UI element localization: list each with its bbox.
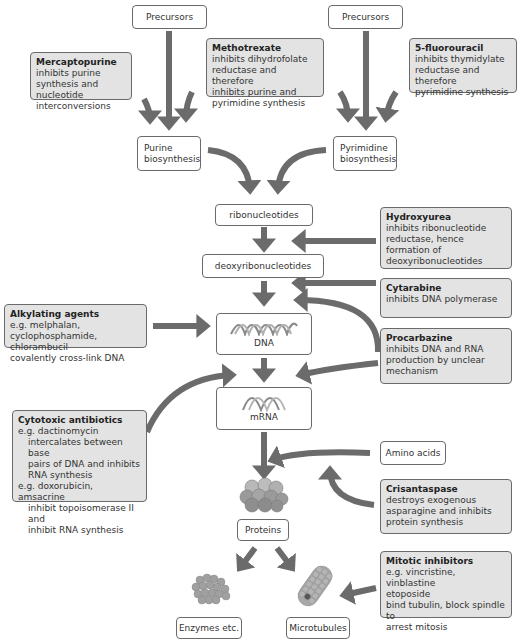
drug-desc: synthesis and nucleotide: [36, 79, 126, 101]
protein-cluster-icon: [238, 477, 290, 513]
arrow-fluorouracil: [386, 92, 396, 118]
drug-name: Mercaptopurine: [36, 57, 126, 68]
node-label: biosynthesis: [144, 154, 200, 165]
drug-desc: bind tubulin, block spindle to: [386, 600, 506, 622]
drug-desc: asparagine and inhibits: [386, 506, 506, 517]
drug-desc: inhibits thymidylate: [415, 54, 511, 65]
node-label: Precursors: [146, 12, 193, 23]
drug-desc: e.g. melphalan,: [10, 320, 141, 331]
arrow-purine-ribo: [208, 150, 250, 190]
drug-desc: etoposide: [386, 589, 506, 600]
arrow-crisantaspase: [330, 470, 374, 505]
drug-desc: RNA synthesis: [18, 470, 141, 481]
drug-desc: inhibit topoisomerase II and: [18, 503, 141, 525]
arrow-amino-acids: [272, 452, 370, 460]
node-label: Proteins: [245, 525, 281, 536]
drug-name: Hydroxyurea: [386, 212, 506, 223]
node-label: deoxyribonucleotides: [215, 261, 311, 272]
drug-desc: intercalates between base: [18, 437, 141, 459]
drug-alkylating-agents: Alkylating agents e.g. melphalan, cyclop…: [4, 304, 147, 348]
node-label: biosynthesis: [340, 154, 396, 165]
drug-name: Cytotoxic antibiotics: [18, 415, 141, 426]
drug-desc: inhibits dihydrofolate: [212, 54, 318, 65]
node-label: Amino acids: [386, 448, 441, 459]
drug-desc: deoxyribonucleotides: [386, 256, 506, 267]
drug-desc: reductase and therefore: [415, 65, 511, 87]
drug-desc: mechanism: [386, 366, 506, 377]
drug-desc: e.g. dactinomycin: [18, 426, 141, 437]
drug-desc: pyrimidine synthesis: [415, 87, 511, 98]
arrow-methotrexate-pyrimidine: [340, 92, 348, 118]
drug-desc: reductase, hence formation of: [386, 234, 506, 256]
drug-desc: pairs of DNA and inhibits: [18, 459, 141, 470]
dna-node: DNA: [216, 313, 312, 355]
drug-mitotic-inhibitors: Mitotic inhibitors e.g. vincristine, vin…: [380, 551, 512, 618]
microtubule-icon: [294, 562, 336, 610]
drug-name: Methotrexate: [212, 43, 318, 54]
drug-desc: e.g. vincristine, vinblastine: [386, 567, 506, 589]
drug-name: Crisantaspase: [386, 484, 506, 495]
node-label: DNA: [254, 338, 274, 349]
drug-name: Cytarabine: [386, 283, 506, 294]
arrow-pyrimidine-ribo: [278, 150, 326, 190]
ribonucleotides-node: ribonucleotides: [215, 204, 313, 226]
drug-5-fluorouracil: 5-fluorouracil inhibits thymidylate redu…: [409, 38, 517, 93]
drug-name: 5-fluorouracil: [415, 43, 511, 54]
drug-name: Procarbazine: [386, 333, 506, 344]
node-label: Enzymes etc.: [179, 623, 239, 634]
enzymes-node: Enzymes etc.: [176, 617, 242, 639]
precursors-right-node: Precursors: [328, 5, 403, 29]
drug-desc: interconversions: [36, 101, 126, 112]
mrna-node: mRNA: [216, 387, 312, 430]
drug-desc: inhibits DNA and RNA: [386, 344, 506, 355]
drug-procarbazine: Procarbazine inhibits DNA and RNA produc…: [380, 328, 512, 384]
arrow-mercaptopurine: [144, 99, 150, 120]
node-label: Pyrimidine: [340, 143, 396, 154]
mrna-strand-icon: [241, 394, 287, 412]
drug-name: Alkylating agents: [10, 309, 141, 320]
node-label: ribonucleotides: [229, 210, 298, 221]
amino-acids-node: Amino acids: [380, 441, 446, 465]
arrow-proteins-microtubules: [277, 548, 292, 568]
drug-desc: destroys exogenous: [386, 495, 506, 506]
drug-desc: pyrimidine synthesis: [212, 98, 318, 109]
arrow-methotrexate-purine: [186, 92, 192, 118]
drug-desc: arrest mitosis: [386, 622, 506, 633]
drug-crisantaspase: Crisantaspase destroys exogenous asparag…: [380, 479, 512, 534]
node-label: mRNA: [250, 412, 278, 423]
microtubules-node: Microtubules: [286, 617, 350, 639]
drug-desc: inhibit RNA synthesis: [18, 525, 141, 536]
deoxyribonucleotides-node: deoxyribonucleotides: [202, 254, 324, 278]
drug-cytotoxic-antibiotics: Cytotoxic antibiotics e.g. dactinomycin …: [12, 410, 147, 502]
enzyme-cluster-icon: [190, 572, 232, 606]
drug-hydroxyurea: Hydroxyurea inhibits ribonucleotide redu…: [380, 207, 512, 269]
drug-desc: e.g. doxorubicin, amsacrine: [18, 481, 141, 503]
drug-name: Mitotic inhibitors: [386, 556, 506, 567]
drug-desc: covalently cross-link DNA: [10, 353, 141, 364]
drug-desc: production by unclear: [386, 355, 506, 366]
drug-mercaptopurine: Mercaptopurine inhibits purine synthesis…: [30, 52, 132, 100]
precursors-left-node: Precursors: [132, 5, 207, 29]
arrow-proteins-enzymes: [240, 548, 255, 568]
drug-desc: reductase and therefore: [212, 65, 318, 87]
dna-double-helix-icon: [229, 320, 299, 336]
drug-cytarabine: Cytarabine inhibits DNA polymerase: [380, 278, 512, 318]
pyrimidine-biosynthesis-node: Pyrimidinebiosynthesis: [333, 136, 397, 171]
drug-desc: inhibits ribonucleotide: [386, 223, 506, 234]
arrow-procarbazine-mrna: [300, 363, 378, 375]
node-label: Microtubules: [289, 623, 347, 634]
node-label: Precursors: [342, 12, 389, 23]
node-label: Purine: [144, 143, 200, 154]
drug-desc: cyclophosphamide, chlorambucil: [10, 331, 141, 353]
drug-methotrexate: Methotrexate inhibits dihydrofolate redu…: [206, 38, 324, 97]
purine-biosynthesis-node: Purinebiosynthesis: [137, 136, 201, 171]
drug-desc: inhibits purine: [36, 68, 126, 79]
drug-desc: inhibits purine and: [212, 87, 318, 98]
drug-desc: protein synthesis: [386, 517, 506, 528]
arrow-mitotic: [344, 588, 376, 595]
proteins-node: Proteins: [237, 519, 289, 541]
drug-desc: inhibits DNA polymerase: [386, 294, 506, 305]
